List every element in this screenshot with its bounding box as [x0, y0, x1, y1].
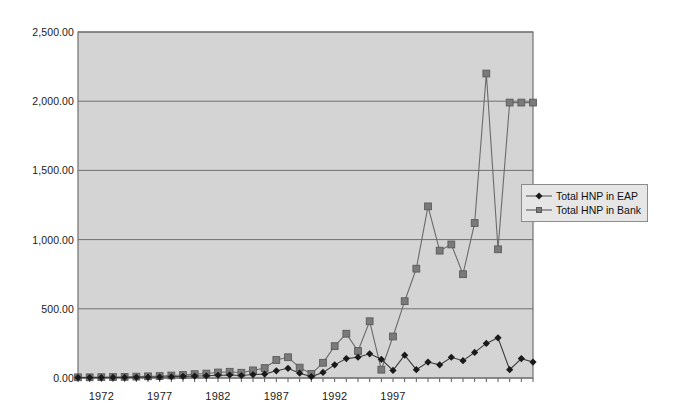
x-tick-label: 1987: [264, 390, 289, 402]
x-tick-label: 1982: [205, 390, 230, 402]
diamond-marker-icon: [526, 190, 552, 202]
x-tick-label: 1972: [89, 390, 114, 402]
legend-label-eap: Total HNP in EAP: [556, 190, 638, 202]
legend-label-bank: Total HNP in Bank: [556, 204, 641, 216]
chart-legend: Total HNP in EAP Total HNP in Bank: [521, 184, 648, 222]
x-tick-label: 1992: [322, 390, 347, 402]
square-marker-icon: [526, 204, 552, 216]
x-tick-label: 1977: [147, 390, 172, 402]
legend-item-bank: Total HNP in Bank: [526, 203, 641, 217]
chart-container: 0.00500.001,000.001,500.002,000.002,500.…: [0, 0, 675, 419]
x-tick-label: 1997: [380, 390, 405, 402]
legend-item-eap: Total HNP in EAP: [526, 189, 641, 203]
